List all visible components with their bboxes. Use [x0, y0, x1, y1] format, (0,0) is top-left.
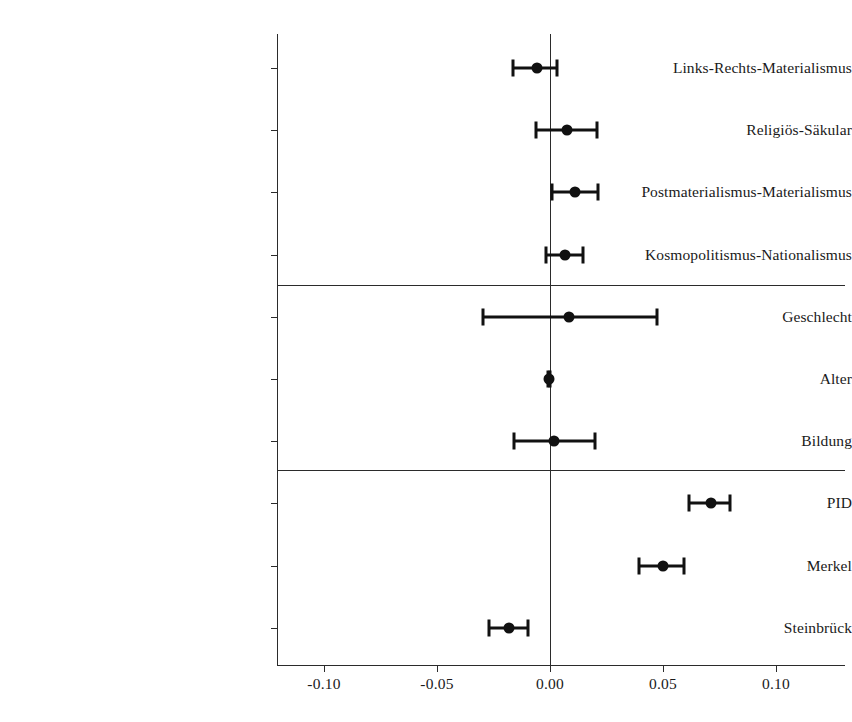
- ci-cap-high-pid: [728, 495, 731, 512]
- x-tick-4: [776, 666, 777, 672]
- point-estimate-bildung: [549, 436, 560, 447]
- x-tick-0: [324, 666, 325, 672]
- point-estimate-steinbr-ck: [504, 622, 515, 633]
- x-tick-label-4: 0.10: [762, 675, 790, 693]
- ci-cap-high-bildung: [593, 433, 596, 450]
- group-separator-1: [277, 285, 845, 286]
- x-tick-label-2: 0.00: [536, 675, 564, 693]
- point-estimate-kosmopolitismus-nationalismus: [559, 249, 570, 260]
- ci-cap-low-steinbr-ck: [487, 619, 490, 636]
- point-estimate-religi-s-s-kular: [561, 125, 572, 136]
- x-tick-label-3: 0.05: [649, 675, 677, 693]
- point-estimate-postmaterialismus-materialismus: [569, 187, 580, 198]
- ci-cap-high-religi-s-s-kular: [596, 122, 599, 139]
- x-tick-2: [550, 666, 551, 672]
- x-tick-1: [437, 666, 438, 672]
- point-estimate-pid: [705, 498, 716, 509]
- point-estimate-alter: [544, 374, 555, 385]
- ci-cap-low-geschlecht: [481, 308, 484, 325]
- ci-cap-low-kosmopolitismus-nationalismus: [544, 246, 547, 263]
- estimate-row-links-rechts-materialismus: [0, 48, 852, 88]
- point-estimate-merkel: [658, 560, 669, 571]
- point-estimate-geschlecht: [563, 311, 574, 322]
- x-axis-line: [277, 665, 845, 666]
- x-tick-label-1: -0.05: [420, 675, 453, 693]
- ci-cap-high-steinbr-ck: [527, 619, 530, 636]
- point-estimate-links-rechts-materialismus: [531, 63, 542, 74]
- group-separator-2: [277, 470, 845, 471]
- ci-cap-low-pid: [687, 495, 690, 512]
- ci-cap-low-religi-s-s-kular: [534, 122, 537, 139]
- x-tick-3: [663, 666, 664, 672]
- ci-cap-low-links-rechts-materialismus: [511, 60, 514, 77]
- ci-cap-low-merkel: [638, 557, 641, 574]
- estimate-row-religi-s-s-kular: [0, 110, 852, 150]
- ci-cap-high-geschlecht: [655, 308, 658, 325]
- estimate-row-bildung: [0, 421, 852, 461]
- estimate-row-alter: [0, 359, 852, 399]
- estimate-row-postmaterialismus-materialismus: [0, 172, 852, 212]
- ci-cap-high-postmaterialismus-materialismus: [596, 184, 599, 201]
- x-tick-label-0: -0.10: [307, 675, 340, 693]
- ci-cap-high-links-rechts-materialismus: [556, 60, 559, 77]
- ci-cap-low-postmaterialismus-materialismus: [551, 184, 554, 201]
- ci-cap-high-kosmopolitismus-nationalismus: [581, 246, 584, 263]
- ci-cap-high-merkel: [683, 557, 686, 574]
- estimate-row-geschlecht: [0, 297, 852, 337]
- estimate-row-merkel: [0, 546, 852, 586]
- estimate-row-kosmopolitismus-nationalismus: [0, 235, 852, 275]
- ci-cap-low-bildung: [513, 433, 516, 450]
- estimate-row-steinbr-ck: [0, 608, 852, 648]
- coefficient-plot: Links-Rechts-MaterialismusReligiös-Säkul…: [0, 0, 852, 722]
